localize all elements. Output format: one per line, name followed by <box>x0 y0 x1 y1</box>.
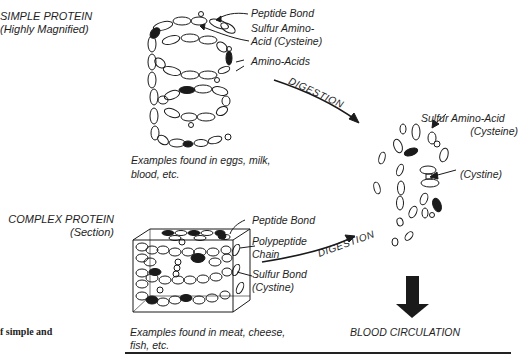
complex-protein-title: COMPLEX PROTEIN <box>0 213 114 225</box>
label-amino-acids: Amino-Acids <box>251 55 310 67</box>
simple-protein-examples-1: Examples found in eggs, milk, <box>131 154 270 166</box>
simple-protein-examples-2: blood, etc. <box>131 168 179 180</box>
protein-digestion-diagram <box>0 0 526 358</box>
complex-protein-examples-1: Examples found in meat, cheese, <box>130 326 285 338</box>
label-peptide-bond: Peptide Bond <box>251 7 314 19</box>
label-sulfur-amino-acid-1: Sulfur Amino- <box>251 22 314 34</box>
digested-amino-acids <box>373 124 450 246</box>
complex-peptide-bond-pointer <box>230 220 245 234</box>
complex-protein-cube <box>133 229 250 312</box>
complex-protein-examples-2: fish, etc. <box>130 339 169 351</box>
complex-label-polypeptide-2: Chain <box>252 248 279 260</box>
simple-protein-helix <box>148 12 237 148</box>
simple-protein-title: SIMPLE PROTEIN <box>0 10 86 22</box>
complex-label-polypeptide-1: Polypeptide <box>252 235 307 247</box>
label-sulfur-amino-acid-2: Acid (Cysteine) <box>251 35 322 47</box>
bottom-rule <box>125 352 511 354</box>
margin-text: f simple and <box>0 326 52 337</box>
digested-sulfur-amino-acid-1: Sulfur Amino-Acid <box>421 112 505 124</box>
complex-protein-subtitle: (Section) <box>0 226 114 238</box>
complex-label-peptide-bond: Peptide Bond <box>252 214 315 226</box>
complex-label-sulfur-bond-2: (Cystine) <box>252 281 294 293</box>
sulfur-amino-acid-pointer <box>200 26 249 41</box>
blood-circulation-label: BLOOD CIRCULATION <box>350 326 460 338</box>
digested-cystine-label: (Cystine) <box>460 168 502 180</box>
digested-sulfur-amino-acid-2: (Cysteine) <box>421 125 518 137</box>
amino-acids-pointers <box>236 60 244 71</box>
blood-circulation-arrow <box>396 276 429 318</box>
complex-label-sulfur-bond-1: Sulfur Bond <box>252 268 307 280</box>
simple-protein-subtitle: (Highly Magnified) <box>0 23 86 35</box>
